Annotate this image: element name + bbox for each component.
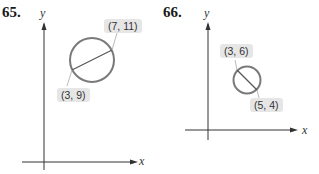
endpoint-label: (3, 9)	[57, 88, 90, 102]
y-axis-label: y	[40, 6, 45, 21]
leader-line	[67, 70, 72, 86]
x-axis-label: x	[302, 123, 307, 138]
problem-66: 66. y x (3, 6) (5, 4)	[160, 0, 319, 174]
endpoint-label: (5, 4)	[250, 98, 283, 112]
x-axis-arrow-icon	[130, 160, 138, 165]
y-axis-label: y	[204, 6, 209, 21]
x-axis-arrow-icon	[290, 128, 298, 133]
y-axis-arrow-icon	[206, 22, 211, 30]
problem-65: 65. y x (7, 11) (3, 9)	[0, 0, 160, 174]
graph-66	[160, 0, 319, 174]
diameter	[237, 70, 257, 90]
y-axis-arrow-icon	[42, 22, 47, 30]
leader-line	[112, 33, 117, 50]
leader-line	[257, 90, 259, 98]
x-axis-label: x	[139, 154, 144, 169]
diameter	[72, 50, 112, 70]
endpoint-label: (7, 11)	[104, 19, 142, 33]
leader-line	[235, 60, 237, 70]
endpoint-label: (3, 6)	[220, 44, 253, 58]
